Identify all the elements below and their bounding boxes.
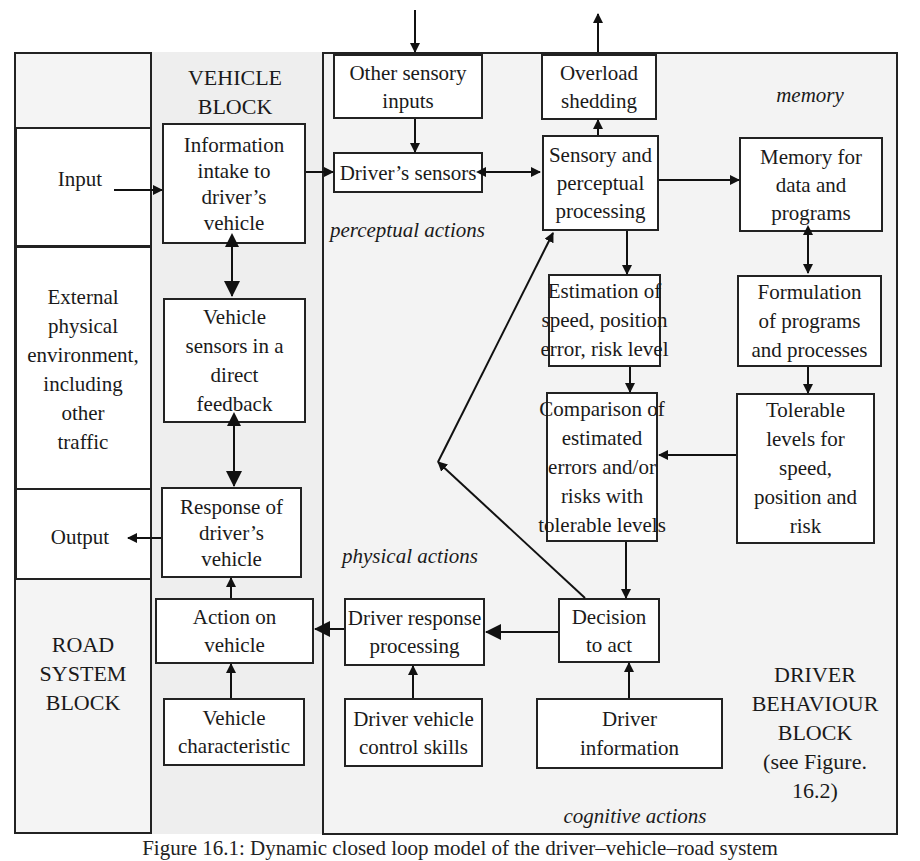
figure-caption: Figure 16.1: Dynamic closed loop model o… xyxy=(0,836,920,861)
